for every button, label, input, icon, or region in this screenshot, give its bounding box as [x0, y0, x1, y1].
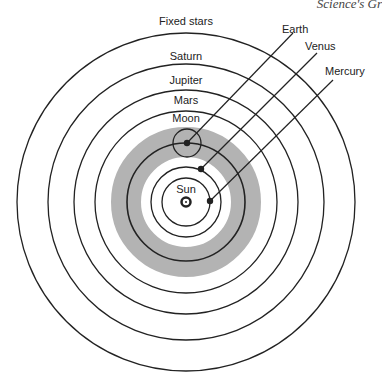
label-sun: Sun	[176, 183, 196, 195]
label-mars: Mars	[174, 94, 199, 106]
label-fixed-stars: Fixed stars	[159, 15, 213, 27]
callout-line-earth	[187, 33, 293, 143]
sun-center-dot	[185, 201, 187, 203]
mercury-dot	[207, 198, 213, 204]
label-moon: Moon	[172, 112, 200, 124]
label-saturn: Saturn	[170, 50, 202, 62]
label-jupiter: Jupiter	[169, 74, 202, 86]
heliocentric-diagram: Fixed stars Saturn Jupiter Mars Moon Ear…	[0, 0, 382, 389]
earth-dot	[184, 140, 190, 146]
label-venus: Venus	[305, 40, 336, 52]
venus-dot	[198, 166, 204, 172]
label-earth: Earth	[282, 23, 308, 35]
label-mercury: Mercury	[325, 65, 365, 77]
